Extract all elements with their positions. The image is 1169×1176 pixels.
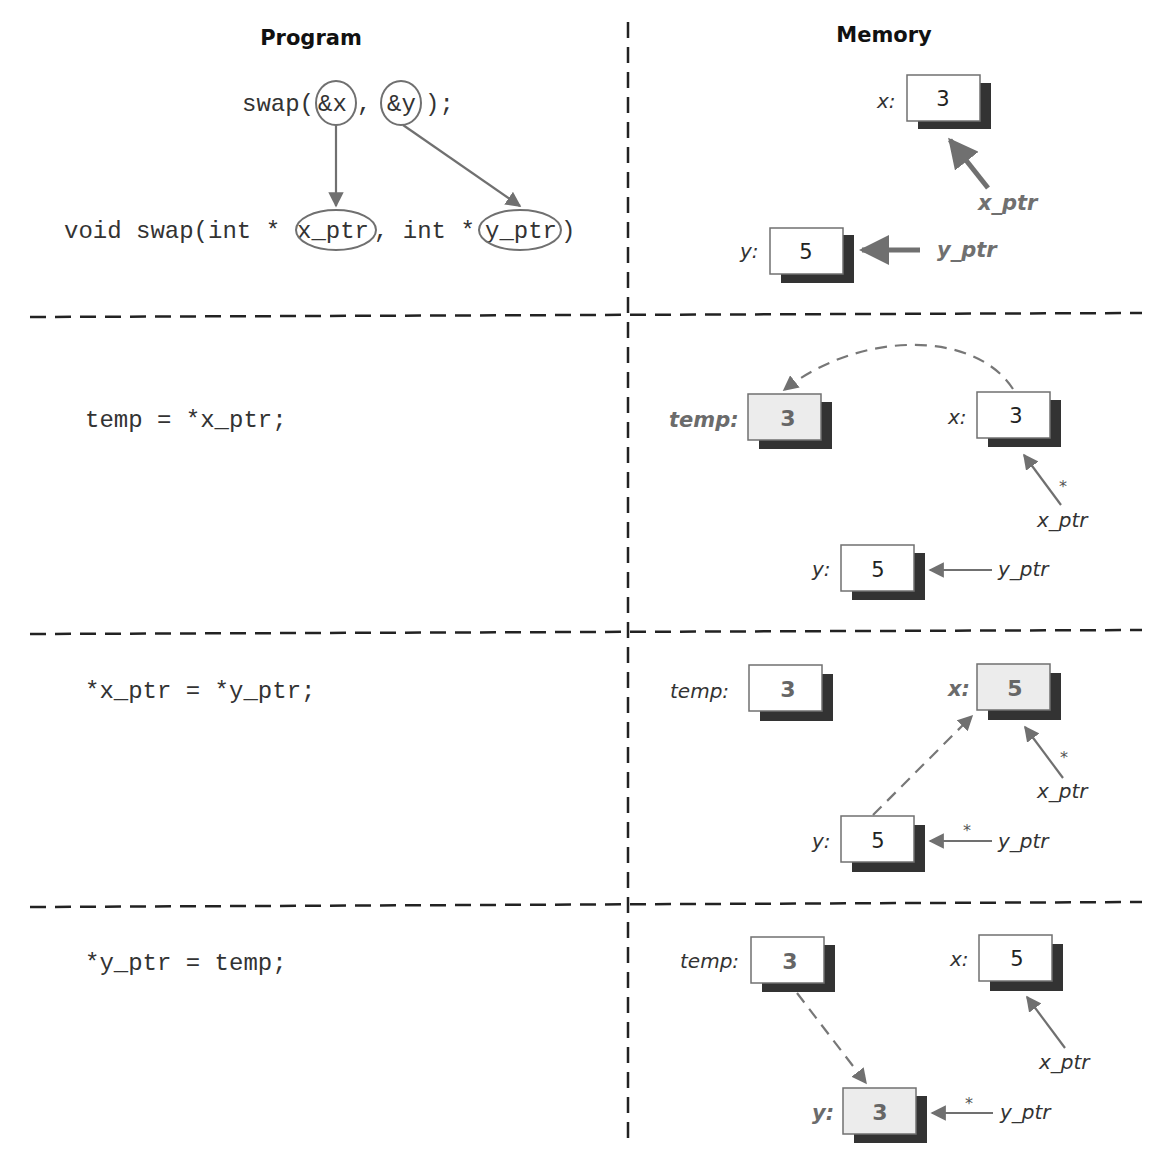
pointer-label-x-ptr: x_ptr	[1038, 1050, 1091, 1074]
value-y: 3	[872, 1100, 887, 1125]
program-header: Program	[260, 26, 362, 50]
value-y: 5	[871, 829, 884, 853]
arrow-x-ptr	[950, 140, 988, 188]
swap-call: swap(&x,&y);	[242, 91, 454, 118]
value-y: 5	[871, 558, 884, 582]
pointer-label-y-ptr: y_ptr	[997, 557, 1050, 581]
row-divider-2	[30, 630, 1142, 634]
value-x: 5	[1007, 676, 1022, 701]
value-x: 3	[936, 87, 949, 111]
value-temp: 3	[782, 949, 797, 974]
arrow-x-ptr	[1024, 455, 1061, 505]
swap-diagram: Program Memory swap(&x,&y); void swap(in…	[0, 0, 1169, 1176]
arrow-x-ptr	[1025, 727, 1063, 778]
swap-declaration: void swap(int *x_ptr, int *y_ptr)	[64, 218, 575, 245]
value-x: 3	[1009, 404, 1022, 428]
step-4-memory: temp: 3 x: 5 y: 3 x_ptr * y_ptr	[680, 935, 1091, 1143]
var-label-x: x:	[949, 947, 969, 971]
deref-star-y: *	[963, 821, 971, 840]
step-3-memory: temp: 3 x: 5 y: 5 * x_ptr * y_ptr	[670, 664, 1089, 872]
pointer-label-y-ptr: y_ptr	[997, 829, 1050, 853]
code-step-2: temp = *x_ptr;	[85, 407, 287, 434]
deref-star-x: *	[1060, 748, 1068, 767]
var-label-y: y:	[812, 1101, 834, 1125]
pointer-label-x-ptr: x_ptr	[1036, 508, 1089, 532]
step-2-memory: temp: 3 x: 3 y: 5 * x_ptr y_ptr	[669, 345, 1089, 600]
row-divider-3	[30, 902, 1142, 907]
var-label-y: y:	[811, 829, 831, 853]
var-label-temp: temp:	[669, 408, 739, 432]
row-divider-1	[30, 313, 1142, 317]
value-y: 5	[799, 240, 812, 264]
pointer-label-y-ptr: y_ptr	[937, 238, 998, 262]
value-temp: 3	[780, 406, 795, 431]
step-1-program: swap(&x,&y); void swap(int *x_ptr, int *…	[64, 81, 575, 250]
value-temp: 3	[780, 677, 795, 702]
var-label-temp: temp:	[670, 679, 729, 703]
arrow-x-ptr	[1027, 997, 1065, 1048]
var-label-x: x:	[947, 405, 967, 429]
copy-arrow-temp-to-y	[797, 993, 866, 1083]
deref-star: *	[1059, 477, 1067, 496]
var-label-temp: temp:	[680, 949, 739, 973]
copy-arrow-x-to-temp	[784, 345, 1013, 390]
code-step-4: *y_ptr = temp;	[85, 950, 287, 977]
pointer-label-x-ptr: x_ptr	[977, 191, 1039, 215]
var-label-y: y:	[739, 239, 759, 263]
var-label-x: x:	[876, 89, 896, 113]
var-label-x: x:	[947, 677, 970, 701]
pointer-label-y-ptr: y_ptr	[999, 1100, 1052, 1124]
var-label-y: y:	[811, 557, 831, 581]
pointer-label-x-ptr: x_ptr	[1036, 779, 1089, 803]
memory-header: Memory	[836, 23, 932, 47]
arrow-y-binding	[403, 125, 520, 206]
deref-star-y: *	[965, 1094, 973, 1113]
code-step-3: *x_ptr = *y_ptr;	[85, 678, 315, 705]
copy-arrow-y-to-x	[873, 716, 972, 815]
value-x: 5	[1010, 947, 1023, 971]
step-1-memory: x: 3 y: 5 x_ptr y_ptr	[739, 75, 1039, 283]
